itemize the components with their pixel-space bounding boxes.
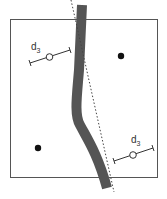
right-d3-label: d3 bbox=[131, 134, 141, 147]
dot-lower-left bbox=[35, 145, 41, 151]
diagram-canvas: d3 d3 bbox=[0, 0, 167, 199]
open-circle-right bbox=[130, 152, 137, 159]
left-d3-label: d3 bbox=[31, 41, 41, 54]
dot-upper-right bbox=[118, 53, 124, 59]
right-d3-measure: d3 bbox=[113, 134, 154, 164]
left-d3-measure: d3 bbox=[29, 41, 71, 66]
open-circle-left bbox=[46, 54, 53, 61]
gray-band bbox=[76, 5, 107, 188]
